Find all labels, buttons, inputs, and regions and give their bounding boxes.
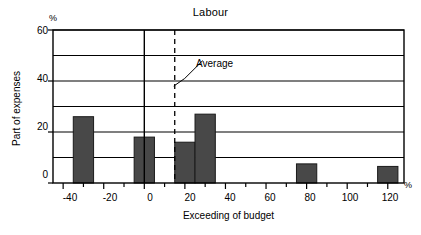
chart-plot (0, 0, 421, 235)
bars-group (73, 114, 398, 183)
average-leader-line (174, 61, 203, 87)
chart-container: Labour Part of expenses Exceeding of bud… (0, 0, 421, 235)
y-axis-ticks (48, 30, 53, 183)
gridlines (53, 30, 404, 158)
x-axis-ticks (63, 183, 388, 189)
